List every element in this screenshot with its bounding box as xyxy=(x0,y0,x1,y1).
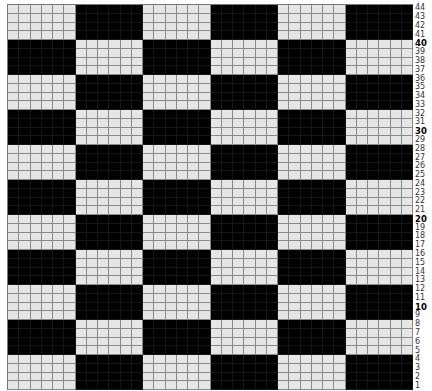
light-stitch-cell xyxy=(222,250,233,259)
light-stitch-cell xyxy=(368,110,379,119)
dark-stitch-cell xyxy=(289,320,300,329)
light-stitch-cell xyxy=(379,136,390,145)
light-stitch-cell xyxy=(8,171,19,180)
light-stitch-cell xyxy=(188,154,199,163)
light-stitch-cell xyxy=(278,154,289,163)
light-stitch-cell xyxy=(301,75,312,84)
light-stitch-cell xyxy=(19,303,30,312)
dark-stitch-cell xyxy=(244,145,255,154)
light-stitch-cell xyxy=(379,66,390,75)
dark-stitch-cell xyxy=(87,75,98,84)
light-stitch-cell xyxy=(301,171,312,180)
dark-stitch-cell xyxy=(98,224,109,233)
dark-stitch-cell xyxy=(98,5,109,14)
light-stitch-cell xyxy=(278,14,289,23)
light-stitch-cell xyxy=(368,136,379,145)
light-stitch-cell xyxy=(121,206,132,215)
light-stitch-cell xyxy=(76,40,87,49)
light-stitch-cell xyxy=(8,233,19,242)
dark-stitch-cell xyxy=(357,311,368,320)
light-stitch-cell xyxy=(323,233,334,242)
light-stitch-cell xyxy=(76,206,87,215)
dark-stitch-cell xyxy=(188,276,199,285)
light-stitch-cell xyxy=(244,206,255,215)
dark-stitch-cell xyxy=(244,233,255,242)
light-stitch-cell xyxy=(76,320,87,329)
light-stitch-cell xyxy=(177,101,188,110)
light-stitch-cell xyxy=(98,66,109,75)
dark-stitch-cell xyxy=(53,189,64,198)
dark-stitch-cell xyxy=(19,49,30,58)
dark-stitch-cell xyxy=(289,128,300,137)
dark-stitch-cell xyxy=(334,136,345,145)
light-stitch-cell xyxy=(199,101,210,110)
light-stitch-cell xyxy=(76,119,87,128)
dark-stitch-cell xyxy=(121,311,132,320)
light-stitch-cell xyxy=(334,294,345,303)
light-stitch-cell xyxy=(64,364,75,373)
light-stitch-cell xyxy=(323,101,334,110)
light-stitch-cell xyxy=(188,381,199,390)
dark-stitch-cell xyxy=(244,355,255,364)
light-stitch-cell xyxy=(132,329,143,338)
light-stitch-cell xyxy=(53,381,64,390)
light-stitch-cell xyxy=(166,224,177,233)
light-stitch-cell xyxy=(301,241,312,250)
light-stitch-cell xyxy=(31,75,42,84)
light-stitch-cell xyxy=(357,49,368,58)
dark-stitch-cell xyxy=(267,171,278,180)
dark-stitch-cell xyxy=(143,110,154,119)
light-stitch-cell xyxy=(267,250,278,259)
light-stitch-cell xyxy=(188,224,199,233)
light-stitch-cell xyxy=(19,224,30,233)
dark-stitch-cell xyxy=(199,329,210,338)
dark-stitch-cell xyxy=(312,250,323,259)
light-stitch-cell xyxy=(199,31,210,40)
dark-stitch-cell xyxy=(87,311,98,320)
dark-stitch-cell xyxy=(278,250,289,259)
light-stitch-cell xyxy=(402,198,413,207)
light-stitch-cell xyxy=(368,259,379,268)
dark-stitch-cell xyxy=(154,136,165,145)
dark-stitch-cell xyxy=(278,40,289,49)
dark-stitch-cell xyxy=(256,294,267,303)
dark-stitch-cell xyxy=(346,364,357,373)
dark-stitch-cell xyxy=(188,268,199,277)
dark-stitch-cell xyxy=(188,206,199,215)
light-stitch-cell xyxy=(166,233,177,242)
light-stitch-cell xyxy=(267,49,278,58)
dark-stitch-cell xyxy=(188,180,199,189)
dark-stitch-cell xyxy=(143,189,154,198)
dark-stitch-cell xyxy=(76,163,87,172)
light-stitch-cell xyxy=(42,285,53,294)
light-stitch-cell xyxy=(323,75,334,84)
dark-stitch-cell xyxy=(301,276,312,285)
light-stitch-cell xyxy=(76,268,87,277)
light-stitch-cell xyxy=(346,110,357,119)
light-stitch-cell xyxy=(154,163,165,172)
dark-stitch-cell xyxy=(166,338,177,347)
light-stitch-cell xyxy=(31,373,42,382)
dark-stitch-cell xyxy=(76,5,87,14)
dark-stitch-cell xyxy=(42,128,53,137)
dark-stitch-cell xyxy=(334,189,345,198)
light-stitch-cell xyxy=(379,119,390,128)
light-stitch-cell xyxy=(222,128,233,137)
dark-stitch-cell xyxy=(76,241,87,250)
light-stitch-cell xyxy=(19,101,30,110)
dark-stitch-cell xyxy=(64,338,75,347)
dark-stitch-cell xyxy=(76,294,87,303)
dark-stitch-cell xyxy=(346,101,357,110)
dark-stitch-cell xyxy=(323,259,334,268)
dark-stitch-cell xyxy=(76,215,87,224)
light-stitch-cell xyxy=(244,268,255,277)
dark-stitch-cell xyxy=(346,373,357,382)
light-stitch-cell xyxy=(222,259,233,268)
row-label: 29 xyxy=(415,136,425,144)
light-stitch-cell xyxy=(346,128,357,137)
dark-stitch-cell xyxy=(222,303,233,312)
dark-stitch-cell xyxy=(87,93,98,102)
dark-stitch-cell xyxy=(154,189,165,198)
dark-stitch-cell xyxy=(278,66,289,75)
dark-stitch-cell xyxy=(267,5,278,14)
